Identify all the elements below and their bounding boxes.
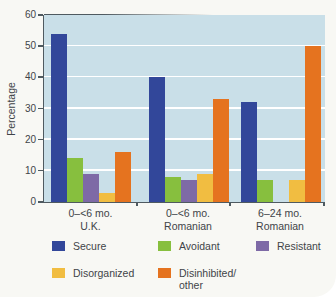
legend-swatch-disinhibited-other bbox=[158, 268, 171, 278]
bar-avoidant-0-6-mo-u-k bbox=[67, 158, 83, 202]
y-tick-mark-0 bbox=[38, 201, 43, 203]
bar-disorganized-0-6-mo-romanian bbox=[197, 174, 213, 202]
y-tick-label-30: 30 bbox=[0, 103, 36, 114]
bar-avoidant-6-24-mo-romanian bbox=[257, 180, 273, 202]
y-tick-label-10: 10 bbox=[0, 165, 36, 176]
x-tick-mark-3 bbox=[323, 202, 325, 206]
bar-secure-6-24-mo-romanian bbox=[241, 102, 257, 202]
legend-label-avoidant: Avoidant bbox=[179, 240, 220, 253]
bar-disorganized-6-24-mo-romanian bbox=[289, 180, 305, 202]
y-tick-mark-30 bbox=[38, 108, 43, 110]
legend-item-secure: Secure bbox=[52, 240, 158, 253]
bar-avoidant-0-6-mo-romanian bbox=[165, 177, 181, 202]
y-tick-label-40: 40 bbox=[0, 71, 36, 82]
y-tick-mark-40 bbox=[38, 76, 43, 78]
attachment-bar-chart-figure: Percentage SecureAvoidantResistantDisorg… bbox=[0, 0, 336, 297]
legend-label-resistant: Resistant bbox=[277, 240, 321, 253]
legend-item-resistant: Resistant bbox=[256, 240, 321, 253]
legend-swatch-avoidant bbox=[158, 241, 171, 251]
y-tick-mark-50 bbox=[38, 45, 43, 47]
legend-swatch-resistant bbox=[256, 241, 269, 251]
x-tick-mark-1 bbox=[136, 202, 138, 206]
legend-swatch-disorganized bbox=[52, 268, 65, 278]
bar-group-6-24-mo-romanian bbox=[241, 15, 321, 202]
bar-disorganized-0-6-mo-u-k bbox=[99, 193, 115, 202]
bar-secure-0-6-mo-u-k bbox=[51, 34, 67, 202]
legend-item-avoidant: Avoidant bbox=[158, 240, 256, 253]
y-tick-label-0: 0 bbox=[0, 196, 36, 207]
x-axis-label-6-24-mo-romanian: 6–24 mo.Romanian bbox=[232, 207, 328, 232]
y-tick-label-50: 50 bbox=[0, 40, 36, 51]
legend-label-disinhibited-other: Disinhibited/ other bbox=[179, 267, 236, 292]
plot-area bbox=[43, 15, 325, 203]
bar-group-0-6-mo-u-k bbox=[51, 15, 131, 202]
y-tick-mark-60 bbox=[38, 14, 43, 16]
y-tick-label-20: 20 bbox=[0, 134, 36, 145]
legend-item-disinhibited-other: Disinhibited/ other bbox=[158, 267, 256, 292]
legend-label-disorganized: Disorganized bbox=[73, 267, 134, 280]
y-tick-mark-20 bbox=[38, 139, 43, 141]
bar-secure-0-6-mo-romanian bbox=[149, 77, 165, 202]
x-axis-label-0-6-mo-u-k: 0–<6 mo.U.K. bbox=[43, 207, 139, 232]
bar-resistant-0-6-mo-u-k bbox=[83, 174, 99, 202]
y-tick-label-60: 60 bbox=[0, 9, 36, 20]
legend: SecureAvoidantResistantDisorganizedDisin… bbox=[52, 240, 321, 292]
x-tick-mark-2 bbox=[229, 202, 231, 206]
bar-disinhibited-other-0-6-mo-romanian bbox=[213, 99, 229, 202]
bar-disinhibited-other-6-24-mo-romanian bbox=[305, 46, 321, 202]
y-tick-mark-10 bbox=[38, 170, 43, 172]
bar-disinhibited-other-0-6-mo-u-k bbox=[115, 152, 131, 202]
bar-group-0-6-mo-romanian bbox=[149, 15, 229, 202]
legend-swatch-secure bbox=[52, 241, 65, 251]
legend-item-disorganized: Disorganized bbox=[52, 267, 158, 292]
legend-label-secure: Secure bbox=[73, 240, 106, 253]
bar-resistant-0-6-mo-romanian bbox=[181, 180, 197, 202]
x-axis-label-0-6-mo-romanian: 0–<6 mo.Romanian bbox=[140, 207, 236, 232]
